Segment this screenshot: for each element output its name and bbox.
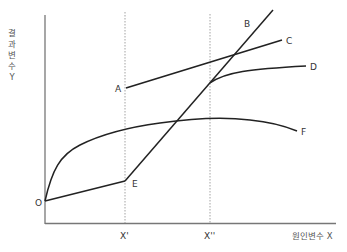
- label-A: A: [115, 84, 122, 94]
- line-C: [126, 40, 282, 88]
- label-O: O: [35, 198, 42, 208]
- line-OE: [45, 181, 125, 201]
- label-C: C: [286, 36, 292, 46]
- x-axis-label: 원인변수 X: [292, 231, 333, 241]
- label-B: B: [244, 19, 250, 29]
- label-E: E: [132, 179, 138, 189]
- label-D: D: [310, 62, 317, 72]
- line-B: [125, 10, 273, 181]
- tick-x-prime: X': [120, 231, 129, 241]
- curve-F: [45, 118, 297, 201]
- tick-x-double-prime: X'': [204, 231, 215, 241]
- label-F: F: [301, 127, 306, 137]
- curve-D: [210, 66, 306, 83]
